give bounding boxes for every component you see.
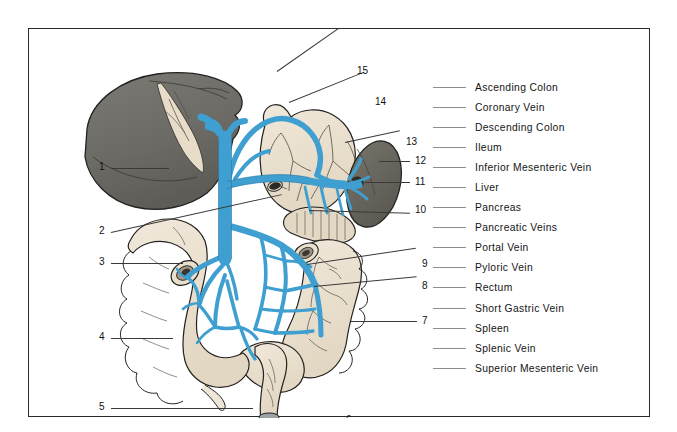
legend-label: Ileum [475, 142, 502, 153]
answer-blank[interactable] [433, 147, 466, 148]
leader-line-11 [365, 182, 410, 183]
legend-label: Superior Mesenteric Vein [475, 363, 598, 374]
leader-line-5 [111, 408, 253, 409]
callout-number-5: 5 [99, 402, 105, 412]
legend-label: Liver [475, 182, 499, 193]
callout-number-7: 7 [422, 316, 428, 326]
legend-row[interactable]: Descending Colon [433, 117, 648, 137]
leader-line-3 [111, 263, 183, 264]
leader-line-4 [111, 338, 173, 339]
answer-blank[interactable] [433, 207, 466, 208]
callout-number-9: 9 [422, 259, 428, 269]
diagram-frame: 1 2 3 4 5 6 7 8 9 10 11 12 13 14 15 Asce… [28, 28, 650, 417]
legend-row[interactable]: Short Gastric Vein [433, 298, 648, 318]
legend-label: Descending Colon [475, 122, 565, 133]
callout-number-1: 1 [99, 162, 105, 172]
answer-blank[interactable] [433, 328, 466, 329]
portal-circulation-drawing [29, 29, 449, 418]
callout-number-15: 15 [357, 66, 368, 76]
legend-row[interactable]: Superior Mesenteric Vein [433, 358, 648, 378]
callout-number-8: 8 [422, 281, 428, 291]
legend-label: Splenic Vein [475, 343, 536, 354]
anatomy-illustration: 1 2 3 4 5 6 7 8 9 10 11 12 13 14 15 [29, 29, 449, 418]
callout-number-12: 12 [415, 156, 426, 166]
legend-label: Spleen [475, 323, 509, 334]
callout-number-4: 4 [99, 332, 105, 342]
legend-row[interactable]: Portal Vein [433, 238, 648, 258]
callout-number-10: 10 [415, 205, 426, 215]
answer-blank[interactable] [433, 308, 466, 309]
legend-label: Short Gastric Vein [475, 303, 564, 314]
callout-number-11: 11 [415, 177, 425, 187]
legend-label: Rectum [475, 282, 513, 293]
callout-number-14: 14 [375, 97, 386, 107]
answer-blank[interactable] [433, 87, 466, 88]
callout-number-3: 3 [99, 257, 105, 267]
legend-row[interactable]: Spleen [433, 318, 648, 338]
callout-number-6: 6 [346, 415, 352, 418]
legend-label: Inferior Mesenteric Vein [475, 162, 592, 173]
legend-label: Pancreas [475, 202, 521, 213]
legend-row[interactable]: Pancreatic Veins [433, 218, 648, 238]
legend-row[interactable]: Rectum [433, 278, 648, 298]
legend-row[interactable]: Liver [433, 177, 648, 197]
answer-blank[interactable] [433, 187, 466, 188]
pancreas-organ [284, 207, 356, 243]
answer-blank[interactable] [433, 267, 466, 268]
leader-line-1 [111, 168, 169, 169]
legend-row[interactable]: Inferior Mesenteric Vein [433, 157, 648, 177]
legend-label: Portal Vein [475, 242, 529, 253]
legend-row[interactable]: Splenic Vein [433, 338, 648, 358]
leader-line-7 [351, 321, 417, 322]
answer-blank[interactable] [433, 107, 466, 108]
answer-blank[interactable] [433, 348, 466, 349]
answer-blank[interactable] [433, 167, 466, 168]
legend-label: Ascending Colon [475, 82, 558, 93]
legend-label: Pancreatic Veins [475, 222, 557, 233]
legend-label: Coronary Vein [475, 102, 545, 113]
callout-number-2: 2 [99, 226, 105, 236]
answer-blank[interactable] [433, 287, 466, 288]
answer-blank[interactable] [433, 247, 466, 248]
legend-row[interactable]: Pyloric Vein [433, 258, 648, 278]
callout-number-13: 13 [406, 137, 417, 147]
term-legend-list: Ascending Colon Coronary Vein Descending… [433, 77, 648, 378]
legend-row[interactable]: Ascending Colon [433, 77, 648, 97]
answer-blank[interactable] [433, 127, 466, 128]
answer-blank[interactable] [433, 227, 466, 228]
worksheet-page: 1 2 3 4 5 6 7 8 9 10 11 12 13 14 15 Asce… [0, 0, 677, 432]
leader-line-12 [379, 161, 410, 162]
legend-row[interactable]: Coronary Vein [433, 97, 648, 117]
legend-row[interactable]: Ileum [433, 137, 648, 157]
legend-label: Pyloric Vein [475, 262, 533, 273]
legend-row[interactable]: Pancreas [433, 198, 648, 218]
answer-blank[interactable] [433, 368, 466, 369]
